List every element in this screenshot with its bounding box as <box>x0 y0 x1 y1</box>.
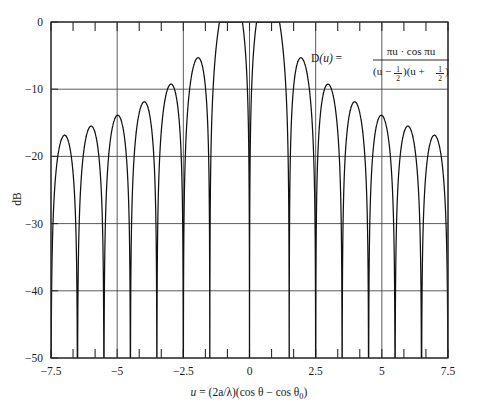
formula-den-frac1-den: 2 <box>396 74 400 83</box>
difference-pattern-chart: −7.5−5−2.502.557.5 0−10−20−30−40−50 dB u… <box>0 0 482 416</box>
formula-den-frac2-den: 2 <box>438 74 442 83</box>
chart-background <box>0 0 482 416</box>
formula-of-u: (u) <box>319 52 333 65</box>
y-tick-label-0: 0 <box>37 16 43 28</box>
x-tick-label-5: 5 <box>379 365 385 377</box>
x-tick-label-0: −7.5 <box>41 365 62 377</box>
x-tick-label-1: −5 <box>111 365 123 377</box>
formula-den-frac2-num: 1 <box>438 65 442 74</box>
formula-den-frac1-num: 1 <box>396 65 400 74</box>
y-tick-label-3: −30 <box>25 218 43 230</box>
formula-equals: = <box>336 52 343 64</box>
x-tick-label-3: 0 <box>247 365 253 377</box>
y-tick-label-4: −40 <box>25 285 43 297</box>
x-tick-label-2: −2.5 <box>173 365 194 377</box>
formula-den-left: (u − <box>373 65 391 78</box>
x-tick-label-4: 2.5 <box>308 365 323 377</box>
formula-numerator: πu · cos πu <box>387 45 436 57</box>
x-tick-label-6: 7.5 <box>441 365 456 377</box>
x-axis-label-rest: (2a/λ)(cos θ − cos θ <box>209 386 300 399</box>
svg-text:D(u) =: D(u) = <box>311 52 342 65</box>
y-tick-label-2: −20 <box>25 150 43 162</box>
figure-container: −7.5−5−2.502.557.5 0−10−20−30−40−50 dB u… <box>0 0 482 416</box>
formula-script-D: D <box>311 52 319 64</box>
y-tick-label-5: −50 <box>25 352 43 364</box>
x-axis-label-close: ) <box>304 386 308 399</box>
y-axis-label: dB <box>11 192 23 206</box>
formula-den-mid: )(u + <box>403 65 425 78</box>
y-tick-label-1: −10 <box>25 83 43 95</box>
